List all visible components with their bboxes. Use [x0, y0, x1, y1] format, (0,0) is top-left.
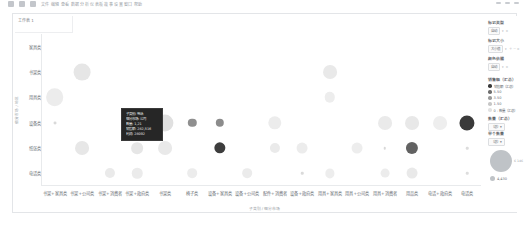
forward-icon[interactable]	[30, 1, 36, 7]
app-icon[interactable]	[8, 1, 14, 7]
encoding-group-header: 颜色依据	[488, 56, 529, 62]
x-axis-tick-label[interactable]: 用品类	[406, 190, 418, 196]
color-legend-label: 销售额（汇总）	[494, 84, 515, 89]
data-point-bubble[interactable]	[75, 141, 89, 155]
x-axis-tick-label[interactable]: 椅子类	[186, 190, 198, 196]
x-axis-tick-label[interactable]: 电话+政府类	[428, 190, 452, 196]
data-point-bubble[interactable]	[214, 142, 225, 153]
data-point-bubble[interactable]	[46, 89, 64, 107]
size-legend-sub2-row[interactable]: （总）▾	[488, 138, 529, 146]
x-axis-tick-label[interactable]: 设备+家具类	[208, 190, 232, 196]
encoding-dropdown[interactable]: 大小值	[488, 45, 503, 53]
encoding-dropdown-row[interactable]: 自动▾×	[488, 27, 529, 35]
x-axis-tick-label[interactable]: 书架+公司类	[70, 190, 94, 196]
encoding-extra-controls[interactable]: ＋ － ×	[509, 46, 520, 52]
y-axis-tick-label[interactable]: 纸张类	[29, 145, 41, 151]
color-legend-label: 1.50	[494, 102, 502, 106]
encoding-dropdown-row[interactable]: 大小值▾＋ － ×	[488, 45, 529, 53]
tooltip-line: 利润: 28092	[126, 132, 159, 137]
data-point-bubble[interactable]	[216, 118, 224, 126]
y-axis-line	[41, 34, 42, 186]
data-point-bubble[interactable]	[405, 116, 419, 130]
y-axis-tick-label[interactable]: 设备类	[29, 120, 41, 126]
encoding-controls: 标记类型自动▾×标记大小大小值▾＋ － ×颜色依据自动▾×	[488, 20, 529, 71]
data-point-bubble[interactable]	[187, 169, 197, 179]
encoding-group-header: 标记大小	[488, 38, 529, 44]
data-point-bubble[interactable]	[460, 115, 475, 130]
data-point-bubble[interactable]	[297, 143, 308, 154]
data-point-bubble[interactable]	[132, 168, 143, 179]
color-legend-label: 5.50	[494, 90, 502, 94]
encoding-dropdown[interactable]: 自动	[488, 27, 500, 35]
x-axis-tick-label[interactable]: 设备+政府类	[290, 190, 314, 196]
encoding-dropdown-row[interactable]: 自动▾×	[488, 63, 529, 71]
x-axis-tick-label[interactable]: 用具+家具类	[318, 190, 342, 196]
close-icon[interactable]: ×	[506, 28, 509, 34]
y-axis-tick-label[interactable]: 电话类	[29, 170, 41, 176]
data-point-bubble[interactable]	[325, 169, 334, 178]
data-point-bubble[interactable]	[378, 116, 392, 130]
y-axis-tick-label[interactable]: 家具类	[29, 44, 41, 50]
data-point-bubble[interactable]	[242, 169, 252, 179]
data-point-bubble[interactable]	[383, 147, 386, 150]
presentation-icon[interactable]	[496, 2, 501, 4]
fit-icon[interactable]	[505, 2, 510, 4]
y-axis-labels: 家具类书架类用具类设备类纸张类电话类	[25, 34, 41, 186]
size-legend-sub[interactable]: （总）▾	[488, 123, 505, 131]
size-legend-small-label: 4,430	[497, 177, 507, 181]
data-point-tooltip: 子类别: 电话细分市场: 公司数量: 1,21销售额: 282,516利润: 2…	[121, 108, 163, 141]
x-axis-tick-label[interactable]: 电话类	[461, 190, 473, 196]
data-point-bubble[interactable]	[268, 116, 281, 129]
data-point-bubble[interactable]	[158, 141, 172, 155]
highlight-icon[interactable]	[514, 2, 519, 4]
data-point-bubble[interactable]	[188, 118, 196, 126]
close-icon[interactable]: ×	[506, 64, 509, 70]
back-icon[interactable]	[19, 1, 25, 7]
chevron-down-icon[interactable]: ▾	[505, 46, 507, 52]
x-axis-tick-label[interactable]: 设备+公司类	[235, 190, 259, 196]
data-point-bubble[interactable]	[466, 147, 469, 150]
x-axis-tick-label[interactable]: 配件+消费者	[263, 190, 287, 196]
x-axis-tick-label[interactable]: 书架+家具类	[43, 190, 67, 196]
data-point-bubble[interactable]	[325, 92, 336, 103]
data-point-bubble[interactable]	[131, 142, 143, 154]
data-point-bubble[interactable]	[380, 169, 389, 178]
x-axis-title: 子类别 / 细分市场	[13, 206, 516, 211]
data-point-bubble[interactable]	[352, 143, 363, 154]
size-legend-big-circle	[490, 150, 512, 172]
size-legend-small-row: 4,430	[490, 176, 507, 181]
encoding-group-header: 标记类型	[488, 20, 529, 26]
chevron-down-icon[interactable]: ▾	[502, 64, 504, 70]
x-axis-tick-label[interactable]: 用具+消费者	[373, 190, 397, 196]
worksheet-card: 工作表 1 细分市场 / 地区 家具类书架类用具类设备类纸张类电话类 子类别: …	[12, 13, 517, 213]
size-legend-title: 数量（汇总）	[488, 116, 529, 122]
app-menubar: 文件 编辑 查看 数据 分析 仪表板 故事 设置 窗口 帮助	[0, 0, 529, 12]
x-axis-line	[41, 185, 481, 186]
size-legend-scale: 6 146 4,430	[488, 149, 529, 183]
y-axis-tick-label[interactable]: 用具类	[29, 94, 41, 100]
data-point-bubble[interactable]	[105, 168, 115, 178]
data-point-bubble[interactable]	[407, 168, 418, 179]
chevron-down-icon[interactable]: ▾	[502, 28, 504, 34]
data-point-bubble[interactable]	[406, 142, 418, 154]
x-axis-tick-label[interactable]: 书架+消费者	[98, 190, 122, 196]
data-point-bubble[interactable]	[53, 121, 56, 124]
encoding-dropdown[interactable]: 自动	[488, 63, 500, 71]
encoding-group: 标记大小大小值▾＋ － ×	[488, 38, 529, 53]
data-point-bubble[interactable]	[433, 116, 447, 130]
x-axis-tick-label[interactable]: 用具+公司类	[345, 190, 369, 196]
size-legend-sub2[interactable]: （总）▾	[488, 138, 505, 146]
menubar-left: 文件 编辑 查看 数据 分析 仪表板 故事 设置 窗口 帮助	[8, 1, 142, 7]
data-point-bubble[interactable]	[323, 65, 337, 79]
data-point-bubble[interactable]	[466, 172, 469, 175]
encoding-group: 标记类型自动▾×	[488, 20, 529, 35]
color-legend-label: 0 - 数量（汇总）	[494, 108, 518, 113]
x-axis-tick-label[interactable]: 书架+政府类	[125, 190, 149, 196]
data-point-bubble[interactable]	[270, 143, 280, 153]
size-legend-sub-row[interactable]: （总）▾	[488, 123, 529, 131]
x-axis-tick-label[interactable]: 书架类	[159, 190, 171, 196]
scatter-plot-area[interactable]	[41, 34, 481, 186]
y-axis-tick-label[interactable]: 书架类	[29, 69, 41, 75]
data-point-bubble[interactable]	[301, 172, 304, 175]
data-point-bubble[interactable]	[74, 64, 91, 81]
